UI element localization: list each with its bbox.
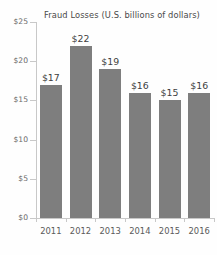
x-axis-tick (125, 218, 126, 222)
bar-group: $19 (95, 22, 125, 218)
y-axis-label: $25 (0, 18, 28, 26)
bar (129, 93, 151, 218)
bar-group: $17 (36, 22, 66, 218)
x-axis-tick (36, 218, 37, 222)
bar-value-label: $19 (92, 57, 128, 67)
bar-value-label: $17 (33, 73, 69, 83)
x-axis-tick (184, 218, 185, 222)
bars-layer: $17$22$19$16$15$16 (36, 22, 214, 218)
y-axis-label: $0 (0, 214, 28, 222)
bar (159, 100, 181, 218)
bar-group: $16 (184, 22, 214, 218)
bar-value-label: $16 (181, 81, 217, 91)
x-axis-tick (214, 218, 215, 222)
x-axis-label: 2016 (182, 226, 216, 236)
x-axis-tick (155, 218, 156, 222)
bar-value-label: $22 (63, 34, 99, 44)
bar (188, 93, 210, 218)
bar-group: $15 (155, 22, 185, 218)
bar-group: $22 (66, 22, 96, 218)
bar (99, 69, 121, 218)
y-axis-label: $10 (0, 136, 28, 144)
y-axis-label: $5 (0, 175, 28, 183)
x-axis-tick (66, 218, 67, 222)
chart-title: Fraud Losses (U.S. billions of dollars) (44, 10, 216, 20)
x-axis-tick (95, 218, 96, 222)
bar-chart: Fraud Losses (U.S. billions of dollars) … (0, 0, 217, 255)
bar (70, 46, 92, 218)
bar (40, 85, 62, 218)
y-axis-label: $20 (0, 57, 28, 65)
bar-group: $16 (125, 22, 155, 218)
y-axis-label: $15 (0, 96, 28, 104)
